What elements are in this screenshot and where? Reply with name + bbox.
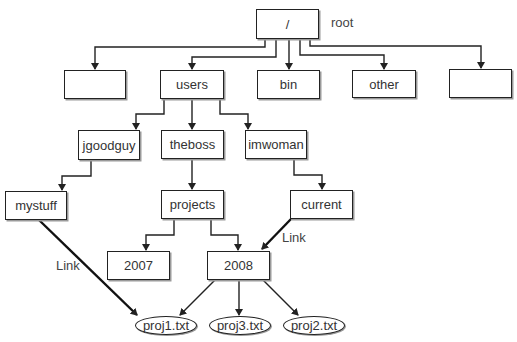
link-label-current: Link: [282, 230, 306, 245]
file-system-diagram: / root users bin other jgoodguy theboss …: [0, 0, 517, 342]
users-directory[interactable]: users: [160, 70, 224, 99]
proj2-file[interactable]: proj2.txt: [283, 316, 345, 335]
unnamed-directory-right[interactable]: [449, 69, 512, 98]
mystuff-directory[interactable]: mystuff: [5, 191, 67, 220]
theboss-directory[interactable]: theboss: [161, 130, 224, 159]
2007-directory[interactable]: 2007: [107, 251, 170, 280]
other-directory[interactable]: other: [352, 70, 416, 98]
jgoodguy-directory[interactable]: jgoodguy: [78, 130, 140, 160]
bin-directory[interactable]: bin: [257, 70, 320, 99]
current-directory[interactable]: current: [290, 190, 353, 219]
2008-directory[interactable]: 2008: [207, 251, 270, 280]
proj3-file[interactable]: proj3.txt: [209, 316, 271, 335]
proj1-file[interactable]: proj1.txt: [135, 316, 197, 335]
root-annotation: root: [331, 15, 353, 30]
root-directory[interactable]: /: [256, 9, 319, 39]
connector-lines: [0, 0, 517, 342]
link-label-mystuff: Link: [56, 258, 80, 273]
unnamed-directory-left[interactable]: [64, 70, 126, 99]
projects-directory[interactable]: projects: [161, 190, 224, 219]
imwoman-directory[interactable]: imwoman: [245, 130, 307, 159]
root-label: /: [286, 17, 290, 32]
